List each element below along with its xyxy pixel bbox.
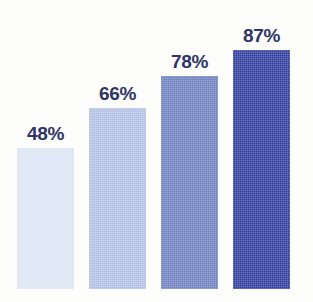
bar-group-3[interactable]: 78% [161, 76, 218, 289]
bar-value-label-4: 87% [243, 26, 280, 45]
plot-area: 48% 66% 78% 87% [0, 0, 313, 302]
bar-1[interactable] [17, 148, 74, 289]
bar-4[interactable] [233, 50, 290, 289]
bar-2[interactable] [89, 108, 146, 289]
bar-group-1[interactable]: 48% [17, 148, 74, 289]
bar-value-label-1: 48% [27, 124, 64, 143]
bar-group-4[interactable]: 87% [233, 50, 290, 289]
bar-3[interactable] [161, 76, 218, 289]
bar-chart-figure: 48% 66% 78% 87% [0, 0, 313, 302]
bar-group-2[interactable]: 66% [89, 108, 146, 289]
bar-value-label-3: 78% [171, 52, 208, 71]
bar-value-label-2: 66% [99, 84, 136, 103]
